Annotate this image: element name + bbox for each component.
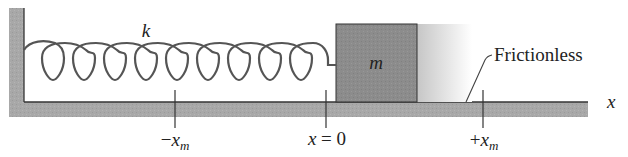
label-neg-xm: −xm — [161, 129, 190, 153]
block-mass: m — [336, 24, 417, 102]
block-label: m — [369, 52, 383, 73]
spring-mass-diagram: m k −xm x = 0 +xm x Frictionless — [0, 0, 628, 157]
spring — [24, 41, 336, 80]
label-pos-xm: +xm — [470, 129, 499, 153]
block-motion-ghost — [417, 24, 472, 102]
axis-label-x: x — [606, 91, 616, 112]
wall — [9, 8, 24, 117]
floor-surface — [9, 102, 588, 117]
spring-constant-label: k — [142, 20, 151, 41]
frictionless-label: Frictionless — [494, 44, 583, 65]
label-zero: x = 0 — [307, 128, 346, 149]
